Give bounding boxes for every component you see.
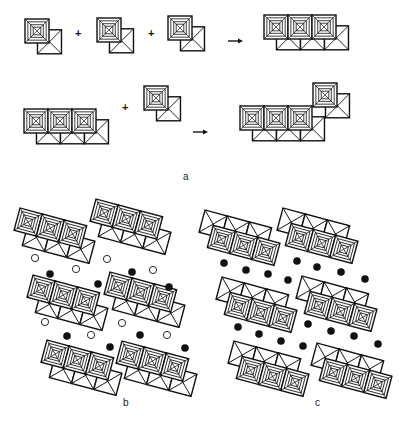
filled-cation [350, 332, 358, 340]
tilted-chain [274, 208, 361, 263]
octahedron-apex-view [312, 15, 336, 39]
plus-sign: + [122, 101, 128, 113]
octahedron-apex-view [134, 211, 162, 239]
filled-cation [220, 259, 228, 267]
filled-cation [374, 340, 382, 348]
filled-cation [165, 283, 173, 291]
octahedral-dimer-unit [25, 19, 61, 54]
panel-label-b: b [123, 397, 129, 408]
octahedron-apex-view [85, 352, 113, 380]
open-cation [103, 255, 110, 262]
panel-b-layered-structure [11, 199, 200, 396]
octahedron-apex-view [168, 16, 192, 40]
octahedron-apex-view [240, 106, 264, 130]
filled-cation [234, 323, 242, 331]
panel-label-a: a [183, 171, 189, 182]
filled-cation [304, 320, 312, 328]
octahedron-apex-view [160, 353, 188, 381]
octahedron-apex-view [144, 86, 168, 110]
octahedron-apex-view [252, 237, 280, 265]
filled-cation [255, 330, 263, 338]
octahedron-apex-view [97, 18, 121, 42]
octahedral-dimer-unit [97, 18, 133, 53]
filled-cation [128, 268, 136, 276]
structure-figure: +++ a b c [0, 0, 407, 423]
reaction-arrow [193, 130, 208, 135]
octahedron-apex-view [72, 109, 96, 133]
filled-cation [277, 337, 285, 345]
open-cation [41, 318, 48, 325]
filled-cation [327, 327, 335, 335]
octahedron-apex-view [58, 220, 86, 248]
octahedron-apex-view [288, 15, 312, 39]
octahedral-dimer-unit [313, 83, 349, 118]
tilted-chain [308, 343, 395, 398]
octahedron-apex-view [349, 303, 377, 331]
filled-cation [361, 275, 369, 283]
filled-cation [299, 342, 307, 350]
octahedron-apex-view [48, 109, 72, 133]
reaction-arrow [228, 39, 243, 44]
filled-cation [284, 276, 292, 284]
octahedron-apex-view [330, 235, 358, 263]
open-cation [149, 266, 156, 273]
octahedron-apex-view [313, 83, 337, 107]
filled-cation [136, 331, 144, 339]
open-cation [72, 265, 79, 272]
open-cation [118, 319, 125, 326]
panel-a-assembly: +++ [24, 15, 349, 144]
octahedron-apex-view [364, 370, 392, 398]
filled-cation [94, 280, 102, 288]
octahedron-apex-view [71, 287, 99, 315]
filled-cation [337, 268, 345, 276]
octahedron-apex-view [264, 15, 288, 39]
octahedron-apex-view [269, 304, 297, 332]
octahedral-chain [264, 15, 348, 50]
filled-cation [46, 270, 54, 278]
filled-cation [242, 266, 250, 274]
octahedron-apex-view [288, 106, 312, 130]
tilted-chain [225, 341, 312, 396]
filled-cation [106, 343, 114, 351]
filled-cation [293, 257, 301, 265]
octahedron-apex-view [25, 19, 49, 43]
octahedral-dimer-unit [144, 86, 180, 121]
filled-cation [63, 332, 71, 340]
open-cation [31, 254, 38, 261]
octahedral-dimer-unit [168, 16, 204, 51]
open-cation [87, 331, 94, 338]
filled-cation [313, 263, 321, 271]
filled-cation [181, 344, 189, 352]
plus-sign: + [148, 27, 154, 39]
octahedron-apex-view [281, 368, 309, 396]
octahedron-apex-view [264, 106, 288, 130]
octahedral-chain [24, 109, 108, 144]
tilted-chain [101, 272, 188, 327]
tilted-chain [87, 199, 174, 254]
tilted-chain [213, 277, 300, 332]
panel-c-layered-structure [196, 208, 395, 398]
panel-label-c: c [315, 397, 320, 408]
open-cation [163, 331, 170, 338]
tilted-chain [196, 210, 283, 265]
octahedron-apex-view [24, 109, 48, 133]
tilted-chain [11, 208, 98, 263]
octahedral-chain [240, 106, 324, 141]
filled-cation [264, 270, 272, 278]
plus-sign: + [75, 27, 81, 39]
